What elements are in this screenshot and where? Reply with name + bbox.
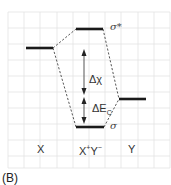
arrow-down-head-icon <box>82 117 87 124</box>
delta-ec-arrow <box>82 97 87 124</box>
x-to-sigma-star-line <box>53 29 76 48</box>
panel-label: (B) <box>2 171 18 185</box>
mo-energy-diagram: σ* σ Δχ ΔEC X X+Y− Y (B) <box>0 0 171 185</box>
sigma-label: σ <box>110 121 117 131</box>
arrow-down-head-icon <box>82 88 87 95</box>
sigma-star-label: σ* <box>110 22 122 32</box>
delta-chi-arrow <box>82 49 87 95</box>
delta-ec-label: ΔEC <box>92 103 112 116</box>
arrow-up-head-icon <box>82 97 87 104</box>
arrow-up-head-icon <box>82 49 87 56</box>
y-axis-label: Y <box>128 144 135 155</box>
x-axis-label: X <box>37 144 44 155</box>
diagram-canvas <box>0 0 171 185</box>
xy-compound-label: X+Y− <box>79 144 102 157</box>
delta-chi-label: Δχ <box>89 74 102 85</box>
